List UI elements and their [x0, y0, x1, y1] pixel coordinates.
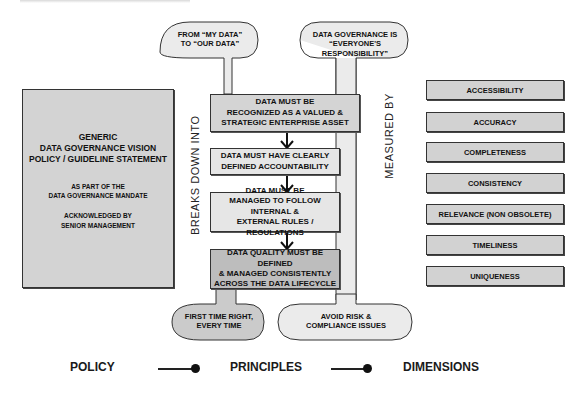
principle-line: DATA QUALITY MUST BE DEFINED	[211, 248, 339, 269]
policy-mandate-line: DATA GOVERNANCE MANDATE	[23, 191, 173, 200]
policy-mandate: AS PART OF THE DATA GOVERNANCE MANDATE	[23, 182, 173, 201]
principle-line: DATA MUST BE	[221, 97, 349, 107]
policy-acknowledgement: ACKNOWLEDGED BY SENIOR MANAGEMENT	[23, 211, 173, 232]
arrow-1-2	[281, 132, 293, 148]
bubble-line: TO “OUR DATA”	[168, 39, 252, 48]
dimension-timeliness: TIMELINESS	[426, 235, 564, 255]
principle-line: ACROSS THE DATA LIFECYCLE	[211, 279, 339, 289]
bubble-line: FROM “MY DATA”	[168, 30, 252, 39]
bottom-left-bubble-text: FIRST TIME RIGHT, EVERY TIME	[176, 312, 262, 331]
policy-ack-line: ACKNOWLEDGED BY	[23, 211, 173, 221]
dimension-completeness: COMPLETENESS	[426, 142, 564, 162]
principle-line: EXTERNAL RULES / REGULATIONS	[211, 217, 339, 238]
dimension-accessibility: ACCESSIBILITY	[426, 80, 564, 100]
principle-line: RECOGNIZED AS A VALUED &	[221, 108, 349, 118]
bubble-line: FIRST TIME RIGHT,	[176, 312, 262, 321]
principle-line: MANAGED TO FOLLOW INTERNAL &	[211, 196, 339, 217]
policy-title-line: DATA GOVERNANCE VISION	[23, 143, 173, 154]
legend-principles: PRINCIPLES	[230, 360, 302, 374]
dimension-relevance: RELEVANCE (NON OBSOLETE)	[426, 204, 564, 224]
principle-line: DATA MUST BE	[211, 186, 339, 196]
bubble-line: COMPLIANCE ISSUES	[282, 321, 410, 330]
measured-by-label: MEASURED BY	[383, 91, 395, 181]
principle-line: DEFINED ACCOUNTABILITY	[221, 162, 330, 172]
legend-dimensions: DIMENSIONS	[403, 360, 479, 374]
bubble-line: AVOID RISK &	[282, 312, 410, 321]
principle-box-4: DATA QUALITY MUST BE DEFINED & MANAGED C…	[210, 249, 340, 289]
legend-connector-dot-icon	[363, 364, 372, 373]
bubble-line: DATA GOVERNANCE IS	[300, 30, 410, 39]
policy-title-line: GENERIC	[23, 132, 173, 143]
top-right-bubble-text: DATA GOVERNANCE IS “EVERYONE'S RESPONSIB…	[300, 30, 410, 58]
principle-line: STRATEGIC ENTERPRISE ASSET	[221, 118, 349, 128]
dimension-consistency: CONSISTENCY	[426, 173, 564, 193]
principle-line: DATA MUST HAVE CLEARLY	[221, 151, 330, 161]
legend-policy: POLICY	[70, 360, 115, 374]
bubble-line: “EVERYONE'S RESPONSIBILITY”	[300, 39, 410, 58]
policy-title: GENERIC DATA GOVERNANCE VISION POLICY / …	[23, 132, 173, 165]
bottom-right-bubble-text: AVOID RISK & COMPLIANCE ISSUES	[282, 312, 410, 331]
dimension-accuracy: ACCURACY	[426, 112, 564, 132]
principle-box-3: DATA MUST BE MANAGED TO FOLLOW INTERNAL …	[210, 192, 340, 232]
bubble-line: EVERY TIME	[176, 321, 262, 330]
breaks-down-into-label: BREAKS DOWN INTO	[189, 125, 201, 235]
principle-box-1: DATA MUST BE RECOGNIZED AS A VALUED & ST…	[210, 94, 360, 132]
principle-box-2: DATA MUST HAVE CLEARLY DEFINED ACCOUNTAB…	[210, 148, 340, 175]
principle-line: & MANAGED CONSISTENTLY	[211, 269, 339, 279]
top-left-bubble-text: FROM “MY DATA” TO “OUR DATA”	[168, 30, 252, 49]
policy-statement-box: GENERIC DATA GOVERNANCE VISION POLICY / …	[22, 89, 174, 288]
dimension-uniqueness: UNIQUENESS	[426, 266, 564, 286]
policy-mandate-line: AS PART OF THE	[23, 182, 173, 191]
legend-connector-dot-icon	[191, 364, 200, 373]
policy-ack-line: SENIOR MANAGEMENT	[23, 221, 173, 231]
policy-title-line: POLICY / GUIDELINE STATEMENT	[23, 154, 173, 165]
